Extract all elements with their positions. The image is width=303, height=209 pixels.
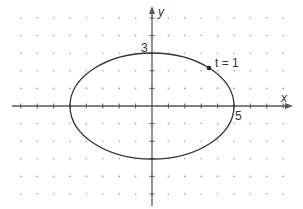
y-intercept-label: 3 [141, 42, 148, 54]
point-label: t = 1 [215, 57, 239, 69]
x-axis-label: x [281, 92, 287, 104]
point-t1 [207, 66, 212, 71]
y-axis-label: y [158, 6, 164, 18]
x-intercept-label: 5 [235, 110, 242, 122]
ellipse-diagram [0, 0, 303, 209]
y-axis-arrow-icon [149, 6, 155, 14]
